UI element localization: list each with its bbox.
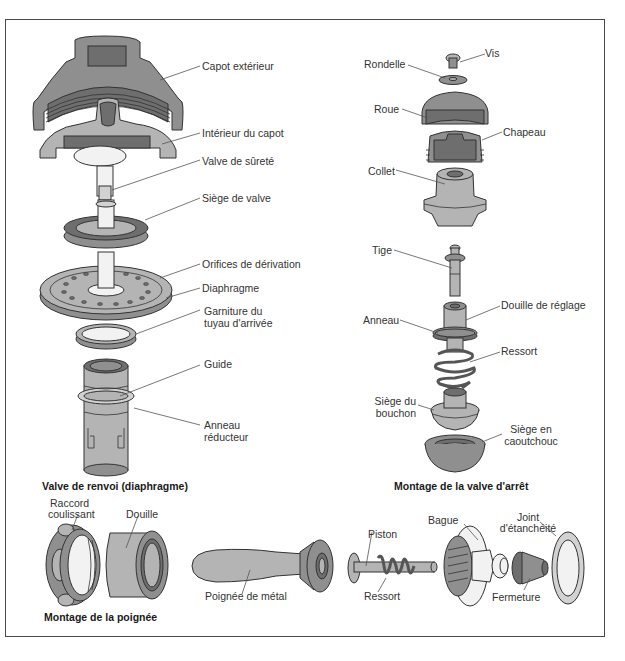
garniture-part	[76, 324, 136, 349]
label-capot-exterieur: Capot extérieur	[202, 61, 274, 72]
label-chapeau: Chapeau	[503, 127, 546, 138]
label-valve-surete: Valve de sûreté	[202, 156, 274, 167]
label-raccord-line2: coulissant	[48, 509, 95, 520]
poignee-metal-part	[192, 540, 333, 592]
label-anneau-reducteur-line2: réducteur	[204, 432, 248, 443]
douille-part	[106, 531, 168, 599]
raccord-coulissant-part	[46, 524, 100, 606]
joint-etancheite-part	[552, 532, 584, 604]
siege-valve-part	[64, 200, 148, 248]
section-title-valve-renvoi: Valve de renvoi (diaphragme)	[42, 480, 188, 492]
label-vis: Vis	[485, 48, 499, 59]
ressort-handle-part	[378, 556, 414, 573]
diaphragme-part	[40, 252, 172, 320]
label-douille: Douille	[126, 509, 158, 520]
label-roue: Roue	[374, 104, 399, 115]
label-guide: Guide	[204, 359, 232, 370]
label-anneau-reducteur-line1: Anneau	[204, 420, 240, 431]
label-orifices-derivation: Orifices de dérivation	[202, 259, 301, 270]
label-anneau: Anneau	[363, 315, 399, 326]
label-diaphragme: Diaphragme	[202, 283, 259, 294]
rondelle-part	[439, 76, 467, 85]
label-rondelle: Rondelle	[364, 59, 405, 70]
fermeture-part	[512, 552, 548, 584]
label-siege-bouchon-line2: bouchon	[370, 408, 416, 419]
label-joint-line2: d'étanchéité	[488, 523, 568, 534]
section-title-poignee: Montage de la poignée	[44, 611, 157, 623]
label-piston: Piston	[368, 529, 397, 540]
label-bague: Bague	[428, 515, 458, 526]
collet-part	[424, 168, 486, 226]
label-douille-reglage: Douille de réglage	[501, 300, 586, 311]
guide-part	[78, 359, 134, 476]
chapeau-part	[426, 131, 484, 162]
tige-part	[445, 245, 465, 296]
vis-part	[446, 54, 460, 68]
label-siege-caoutchouc-line1: Siège en	[498, 424, 564, 435]
douille-reglage-part	[433, 302, 477, 352]
label-collet: Collet	[368, 166, 395, 177]
label-tige: Tige	[372, 245, 392, 256]
label-garniture-line1: Garniture du	[204, 306, 262, 317]
label-siege-bouchon-line1: Siège du	[374, 396, 416, 407]
label-siege-caoutchouc-line2: caoutchouc	[498, 436, 564, 447]
ressort-part	[435, 350, 474, 388]
label-fermeture: Fermeture	[492, 592, 540, 603]
siege-caoutchouc-part	[425, 435, 485, 472]
siege-bouchon-part	[431, 388, 479, 430]
label-garniture-line2: tuyau d'arrivée	[204, 318, 273, 329]
roue-part	[422, 92, 488, 124]
label-ressort-handle: Ressort	[364, 591, 400, 602]
valve-surete-part	[74, 146, 126, 200]
label-siege-valve: Siège de valve	[202, 193, 271, 204]
label-poignee-metal: Poignée de métal	[205, 591, 287, 602]
section-title-valve-arret: Montage de la valve d'arrêt	[394, 480, 528, 492]
label-interieur-capot: Intérieur du capot	[202, 128, 284, 139]
exploded-view-illustration: .dk { fill: #6e6e6e; stroke: #333; strok…	[0, 0, 625, 661]
label-ressort-stop: Ressort	[501, 346, 537, 357]
